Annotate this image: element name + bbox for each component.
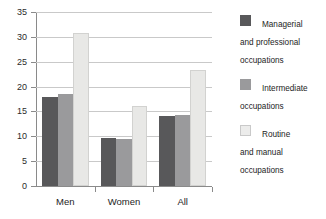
bar bbox=[190, 70, 206, 186]
x-axis-tick bbox=[153, 187, 154, 192]
y-axis-label: 15 bbox=[3, 107, 27, 116]
x-axis-label: Men bbox=[35, 196, 95, 207]
bar bbox=[116, 139, 132, 186]
x-axis-label: Women bbox=[94, 196, 154, 207]
bar bbox=[101, 138, 117, 186]
chart-legend: Managerial and professional occupationsI… bbox=[240, 13, 326, 187]
gridline bbox=[36, 87, 212, 88]
bar bbox=[73, 33, 89, 186]
bar bbox=[132, 106, 148, 186]
gridline bbox=[36, 62, 212, 63]
y-axis-label: 25 bbox=[3, 58, 27, 67]
x-axis-tick bbox=[212, 187, 213, 192]
bar-chart: 05101520253035 MenWomenAll Managerial an… bbox=[0, 0, 326, 219]
bar bbox=[58, 94, 74, 186]
bar bbox=[159, 116, 175, 186]
gridline bbox=[36, 12, 212, 13]
x-axis-label: All bbox=[153, 196, 213, 207]
legend-item: Intermediate occupations bbox=[240, 77, 326, 113]
y-axis-label: 0 bbox=[3, 182, 27, 191]
gridline bbox=[36, 186, 212, 187]
legend-label: Managerial and professional occupations bbox=[240, 20, 303, 65]
gridline bbox=[36, 37, 212, 38]
y-axis-label: 5 bbox=[3, 157, 27, 166]
managerial-swatch bbox=[240, 15, 251, 26]
y-axis-label: 10 bbox=[3, 132, 27, 141]
intermediate-swatch bbox=[240, 79, 251, 90]
y-axis-label: 35 bbox=[3, 8, 27, 17]
legend-item: Routine and manual occupations bbox=[240, 123, 326, 177]
y-axis-label: 20 bbox=[3, 83, 27, 92]
plot-area bbox=[36, 12, 212, 186]
bar bbox=[42, 97, 58, 186]
y-axis-label: 30 bbox=[3, 33, 27, 42]
routine-swatch bbox=[240, 125, 251, 136]
legend-item: Managerial and professional occupations bbox=[240, 13, 326, 67]
x-axis-tick bbox=[95, 187, 96, 192]
bar bbox=[175, 115, 191, 186]
legend-label: Routine and manual occupations bbox=[240, 130, 290, 175]
